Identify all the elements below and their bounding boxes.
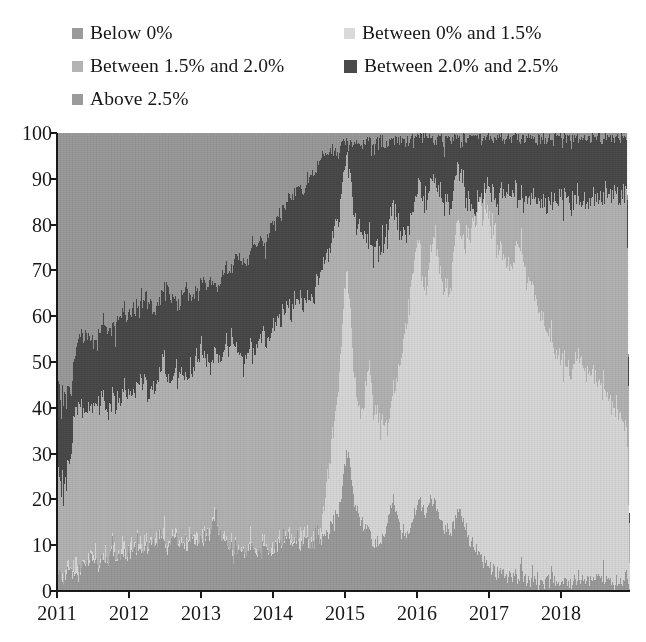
x-tick-label: 2014 (253, 603, 293, 623)
legend-label-between-20-25: Between 2.0% and 2.5% (364, 55, 558, 76)
x-tick-label: 2016 (397, 603, 437, 623)
y-tick-label: 30 (32, 444, 52, 464)
x-tick-label: 2012 (109, 603, 149, 623)
x-axis-labels: 20112012201320142015201620172018 (0, 603, 646, 642)
x-tick-label: 2013 (181, 603, 221, 623)
y-tick-label: 100 (22, 123, 52, 143)
chart-area: 0102030405060708090100 20112012201320142… (0, 128, 646, 642)
stacked-area-plot (0, 128, 646, 642)
y-tick-label: 70 (32, 260, 52, 280)
legend-swatch-below-0 (72, 28, 83, 39)
y-tick-label: 40 (32, 398, 52, 418)
legend-row: Below 0% Between 0% and 1.5% (72, 22, 632, 55)
legend-item-above-25[interactable]: Above 2.5% (72, 88, 344, 109)
legend-swatch-between-15-20 (72, 61, 83, 72)
legend-label-below-0: Below 0% (90, 22, 173, 43)
y-axis-labels: 0102030405060708090100 (0, 128, 52, 598)
chart-page: Below 0% Between 0% and 1.5% Between 1.5… (0, 0, 646, 642)
y-tick-label: 0 (42, 581, 52, 601)
y-tick-label: 10 (32, 535, 52, 555)
legend-row: Between 1.5% and 2.0% Between 2.0% and 2… (72, 55, 632, 88)
legend-item-between-0-15[interactable]: Between 0% and 1.5% (344, 22, 542, 43)
legend-row: Above 2.5% (72, 88, 632, 121)
legend-label-between-15-20: Between 1.5% and 2.0% (90, 55, 284, 76)
legend-label-between-0-15: Between 0% and 1.5% (362, 22, 542, 43)
y-tick-label: 90 (32, 169, 52, 189)
x-tick-label: 2015 (325, 603, 365, 623)
y-tick-label: 20 (32, 489, 52, 509)
legend-item-below-0[interactable]: Below 0% (72, 22, 344, 43)
x-tick-label: 2018 (541, 603, 581, 623)
y-tick-label: 80 (32, 215, 52, 235)
legend-swatch-between-0-15 (344, 28, 355, 39)
chart-legend: Below 0% Between 0% and 1.5% Between 1.5… (72, 22, 632, 121)
y-tick-label: 60 (32, 306, 52, 326)
x-tick-label: 2011 (37, 603, 76, 623)
legend-swatch-between-20-25 (344, 60, 357, 73)
legend-swatch-above-25 (72, 94, 83, 105)
legend-item-between-20-25[interactable]: Between 2.0% and 2.5% (344, 55, 558, 76)
legend-item-between-15-20[interactable]: Between 1.5% and 2.0% (72, 55, 344, 76)
y-tick-label: 50 (32, 352, 52, 372)
legend-label-above-25: Above 2.5% (90, 88, 188, 109)
x-tick-label: 2017 (469, 603, 509, 623)
